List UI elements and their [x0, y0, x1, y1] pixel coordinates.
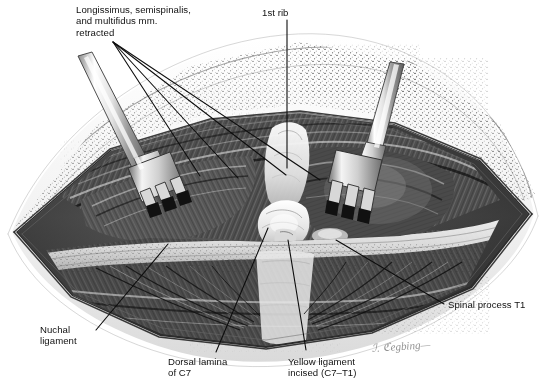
anatomical-artwork [0, 0, 546, 389]
label-yellow-ligament-incised: Yellow ligament incised (C7–T1) [288, 356, 356, 379]
label-first-rib: 1st rib [262, 7, 288, 18]
label-longissimus-semispinalis-multifidus: Longissimus, semispinalis, and multifidu… [76, 4, 191, 38]
label-dorsal-lamina-c7: Dorsal lamina of C7 [168, 356, 227, 379]
label-nuchal-ligament: Nuchal ligament [40, 324, 77, 347]
label-spinal-process-t1: Spinal process T1 [448, 299, 525, 310]
medical-illustration-figure: Longissimus, semispinalis, and multifidu… [0, 0, 546, 389]
